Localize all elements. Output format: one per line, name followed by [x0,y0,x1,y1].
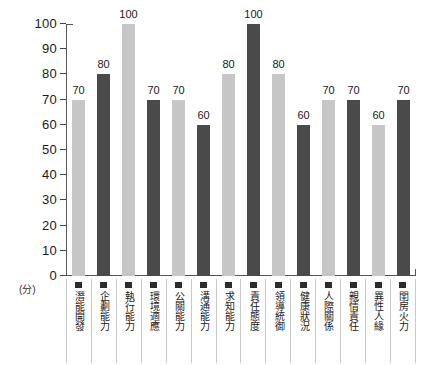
y-axis-tick-label: 50 [21,142,57,158]
bar-value-label: 80 [97,58,109,71]
category-label-text: 企劃能力 [98,291,110,331]
bar: 70 [147,100,160,276]
category-label-cell: 溝通能力 [191,279,216,363]
square-bullet-icon [125,282,132,288]
bar-chart: 1009080706050403020100 (分) 7080100707060… [0,0,434,365]
bar-slot: 70 [166,24,191,276]
y-axis-unit-label: (分) [19,284,36,296]
category-label-text: 環境適應 [148,291,160,331]
bar-value-label: 80 [222,58,234,71]
bar: 70 [347,100,360,276]
bar-slot: 70 [316,24,341,276]
category-label-cell: 人際關係 [315,279,340,363]
category-label-text: 責任態度 [248,291,260,331]
square-bullet-icon [300,282,307,288]
bar-value-label: 80 [272,58,284,71]
category-label-cell: 潛能開發 [66,279,91,363]
bar-value-label: 60 [297,109,309,122]
bar-series: 708010070706080100806070706070 [66,24,416,276]
category-label-text: 異性人緣 [372,291,384,331]
bar-value-label: 70 [347,84,359,97]
y-axis-tick-label: 40 [21,167,57,183]
category-label-cell: 求知能力 [216,279,241,363]
category-label-cell: 執行能力 [116,279,141,363]
bar: 80 [272,74,285,276]
bar-slot: 70 [391,24,416,276]
category-label-text: 溝通能力 [198,291,210,331]
bar-value-label: 70 [172,84,184,97]
category-label-text: 領導統御 [273,291,285,331]
bar-slot: 80 [266,24,291,276]
bar: 100 [247,24,260,276]
bar: 60 [297,125,310,276]
bar: 60 [197,125,210,276]
square-bullet-icon [150,282,157,288]
category-label-cell: 異性人緣 [365,279,390,363]
bar: 70 [397,100,410,276]
square-bullet-icon [325,282,332,288]
category-label-cell: 公關能力 [166,279,191,363]
category-axis-labels: 潛能開發企劃能力執行能力環境適應公關能力溝通能力求知能力責任態度領導統御健康狀況… [66,279,416,363]
bar-slot: 100 [241,24,266,276]
square-bullet-icon [100,282,107,288]
square-bullet-icon [375,282,382,288]
category-label-text: 人際關係 [322,291,334,331]
category-label-text: 潛能開發 [73,291,85,331]
bar-value-label: 70 [322,84,334,97]
square-bullet-icon [350,282,357,288]
bar: 100 [122,24,135,276]
category-label-text: 閨房火力 [397,291,409,331]
square-bullet-icon [200,282,207,288]
category-label-cell: 環境適應 [141,279,166,363]
square-bullet-icon [399,282,406,288]
square-bullet-icon [250,282,257,288]
bar-value-label: 70 [397,84,409,97]
y-axis: 1009080706050403020100 [18,24,66,276]
bar-slot: 80 [91,24,116,276]
y-axis-tick-label: 10 [21,243,57,259]
y-axis-tick-label: 30 [21,192,57,208]
category-label-cell: 企劃能力 [91,279,116,363]
bar: 70 [72,100,85,276]
y-axis-tick-label: 70 [21,92,57,108]
bar-value-label: 70 [72,84,84,97]
bar-slot: 70 [141,24,166,276]
category-label-text: 求知能力 [223,291,235,331]
category-label-cell: 責任態度 [240,279,265,363]
bar-value-label: 60 [197,109,209,122]
category-label-text: 公關能力 [173,291,185,331]
y-axis-tick-label: 0 [21,268,57,284]
bar-slot: 80 [216,24,241,276]
bar-value-label: 60 [372,109,384,122]
bar-value-label: 70 [147,84,159,97]
y-axis-tick-label: 100 [21,16,57,32]
bar-value-label: 100 [119,8,137,21]
bar-slot: 60 [291,24,316,276]
bar-slot: 60 [191,24,216,276]
bar-slot: 100 [116,24,141,276]
category-label-cell: 領導統御 [265,279,290,363]
bar: 80 [222,74,235,276]
bar: 70 [172,100,185,276]
bar: 70 [322,100,335,276]
bar: 80 [97,74,110,276]
bar-slot: 70 [66,24,91,276]
category-label-text: 健康狀況 [298,291,310,331]
y-axis-tick-label: 20 [21,218,57,234]
category-label-text: 執行能力 [123,291,135,331]
category-label-cell: 健康狀況 [290,279,315,363]
category-label-cell: 親情責任 [340,279,365,363]
square-bullet-icon [75,282,82,288]
bar-value-label: 100 [244,8,262,21]
category-label-text: 親情責任 [347,291,359,331]
bar: 60 [372,125,385,276]
square-bullet-icon [225,282,232,288]
y-axis-tick-label: 90 [21,41,57,57]
category-label-cell: 閨房火力 [390,279,416,363]
bar-slot: 70 [341,24,366,276]
y-axis-tick-label: 60 [21,117,57,133]
bar-slot: 60 [366,24,391,276]
square-bullet-icon [275,282,282,288]
y-axis-tick-label: 80 [21,66,57,82]
square-bullet-icon [175,282,182,288]
